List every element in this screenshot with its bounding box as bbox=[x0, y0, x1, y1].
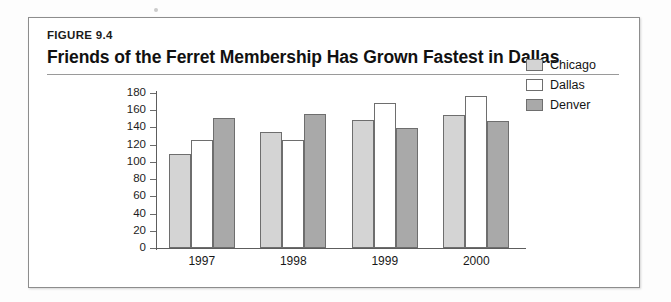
scanned-page-background: FIGURE 9.4 Friends of the Ferret Members… bbox=[0, 0, 671, 302]
y-axis-tick-label: 120 bbox=[116, 139, 146, 151]
legend-label-dallas: Dallas bbox=[550, 78, 585, 92]
legend-swatch-dallas bbox=[526, 79, 543, 91]
y-axis-tick-label: 140 bbox=[116, 122, 146, 134]
figure-label: FIGURE 9.4 bbox=[47, 29, 113, 41]
y-axis-tick-label: 0 bbox=[116, 242, 146, 254]
legend-item-chicago: Chicago bbox=[526, 56, 606, 73]
y-axis-tick-label: 180 bbox=[116, 87, 146, 99]
chart-legend: ChicagoDallasDenver bbox=[526, 56, 606, 116]
bar-denver-1997 bbox=[213, 118, 235, 248]
bar-chicago-1997 bbox=[169, 154, 191, 248]
x-axis-label-1999: 1999 bbox=[355, 254, 415, 268]
bar-denver-1999 bbox=[396, 128, 418, 248]
bar-denver-2000 bbox=[487, 121, 509, 248]
y-axis-tick-label: 20 bbox=[116, 225, 146, 237]
y-axis-tick-label: 60 bbox=[116, 191, 146, 203]
legend-item-denver: Denver bbox=[526, 96, 606, 113]
figure-title: Friends of the Ferret Membership Has Gro… bbox=[47, 47, 559, 68]
y-axis-tick-label: 40 bbox=[116, 208, 146, 220]
bar-dallas-2000 bbox=[465, 96, 487, 248]
legend-label-denver: Denver bbox=[550, 98, 590, 112]
y-axis-tick-label: 160 bbox=[116, 104, 146, 116]
bar-dallas-1997 bbox=[191, 140, 213, 249]
x-axis-label-1997: 1997 bbox=[172, 254, 232, 268]
x-axis-label-2000: 2000 bbox=[446, 254, 506, 268]
plot-area bbox=[156, 93, 522, 248]
y-axis-tick-label: 100 bbox=[116, 156, 146, 168]
scan-speck-artifact bbox=[154, 8, 158, 12]
bar-chicago-2000 bbox=[443, 115, 465, 248]
legend-label-chicago: Chicago bbox=[550, 58, 596, 72]
y-axis-tick-label: 80 bbox=[116, 173, 146, 185]
x-axis-line bbox=[156, 248, 526, 249]
bar-chicago-1998 bbox=[260, 132, 282, 248]
x-axis-label-1998: 1998 bbox=[263, 254, 323, 268]
bar-chicago-1999 bbox=[352, 120, 374, 248]
bar-dallas-1998 bbox=[282, 140, 304, 249]
bar-dallas-1999 bbox=[374, 103, 396, 248]
bar-denver-1998 bbox=[304, 114, 326, 248]
legend-item-dallas: Dallas bbox=[526, 76, 606, 93]
legend-swatch-chicago bbox=[526, 59, 543, 71]
legend-swatch-denver bbox=[526, 99, 543, 111]
y-axis-tick bbox=[150, 248, 156, 249]
figure-box: FIGURE 9.4 Friends of the Ferret Members… bbox=[28, 17, 640, 288]
